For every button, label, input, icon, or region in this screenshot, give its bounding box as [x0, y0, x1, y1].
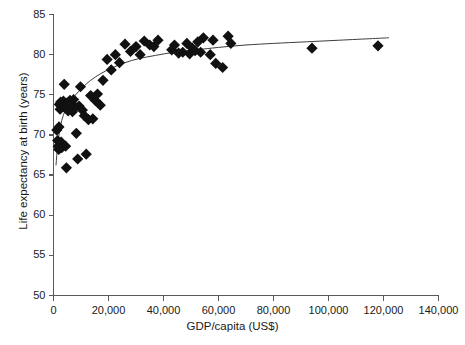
y-tick-label: 85 [24, 8, 46, 20]
data-point [106, 64, 117, 75]
y-axis-title: Life expectancy at birth (years) [17, 31, 29, 271]
y-tick-label: 50 [24, 289, 46, 301]
data-point [97, 75, 108, 86]
plot-area [0, 0, 465, 345]
x-tick-label: 20,000 [92, 304, 126, 316]
data-point [306, 43, 317, 54]
data-point [372, 40, 383, 51]
data-point-markers [51, 31, 383, 174]
x-tick-label: 80,000 [257, 304, 291, 316]
data-point [205, 49, 216, 60]
axis-lines [54, 15, 439, 296]
data-point [59, 79, 70, 90]
x-tick-label: 40,000 [147, 304, 181, 316]
data-point [75, 81, 86, 92]
data-point [71, 128, 82, 139]
x-tick-label: 100,000 [309, 304, 349, 316]
x-tick-label: 120,000 [364, 304, 404, 316]
x-tick-label: 140,000 [419, 304, 459, 316]
x-axis-title: GDP/capita (US$) [0, 320, 465, 332]
x-tick-label: 60,000 [202, 304, 236, 316]
x-tick-label: 0 [50, 304, 56, 316]
data-point [61, 162, 72, 173]
data-point [207, 35, 218, 46]
scatter-chart: 5055606570758085 020,00040,00060,00080,0… [0, 0, 465, 345]
